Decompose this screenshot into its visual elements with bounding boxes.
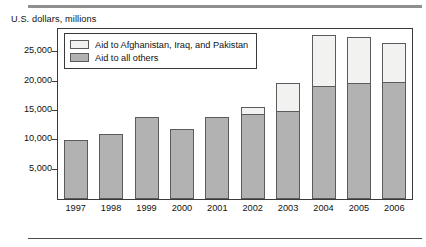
bottom-divider-rule: [28, 238, 422, 239]
bar-segment-all-others[interactable]: [170, 129, 194, 199]
x-axis-tick-label: 2006: [377, 203, 412, 214]
legend-item-label: Aid to Afghanistan, Iraq, and Pakistan: [95, 40, 248, 50]
x-axis-label-group: 1997199819992000200120022003200420052006: [58, 203, 412, 217]
y-axis-label-group: 25,00020,00015,00010,0005,000: [0, 28, 52, 200]
x-axis-tick-label: 2000: [164, 203, 199, 214]
y-axis-tick-label: 25,000: [0, 47, 52, 56]
x-axis-tick-label: 2005: [341, 203, 376, 214]
x-axis-tick-label: 2001: [200, 203, 235, 214]
y-axis-tick-label: 10,000: [0, 135, 52, 144]
bar-segment-all-others[interactable]: [64, 140, 88, 199]
bar-group[interactable]: [382, 29, 406, 199]
bar-segment-all-others[interactable]: [312, 86, 336, 199]
chart-legend: Aid to Afghanistan, Iraq, and Pakistan A…: [64, 33, 257, 69]
bar-segment-afghanistan-iraq-pakistan[interactable]: [241, 107, 265, 115]
bar-segment-all-others[interactable]: [276, 111, 300, 199]
x-axis-tick-label: 2003: [270, 203, 305, 214]
bar-segment-afghanistan-iraq-pakistan[interactable]: [312, 35, 336, 87]
legend-item-label: Aid to all others: [95, 53, 158, 63]
legend-item[interactable]: Aid to Afghanistan, Iraq, and Pakistan: [70, 38, 248, 51]
bar-group[interactable]: [347, 29, 371, 199]
bar-group[interactable]: [276, 29, 300, 199]
x-axis-tick-label: 2002: [235, 203, 270, 214]
top-divider-rule: [28, 5, 422, 8]
bar-segment-all-others[interactable]: [99, 134, 123, 199]
bar-segment-afghanistan-iraq-pakistan[interactable]: [276, 83, 300, 112]
y-axis-title: U.S. dollars, millions: [11, 14, 96, 24]
bar-segment-all-others[interactable]: [135, 117, 159, 199]
y-axis-tick-label: 15,000: [0, 105, 52, 114]
bar-segment-all-others[interactable]: [347, 83, 371, 199]
y-axis-tick-label: 20,000: [0, 76, 52, 85]
bar-segment-afghanistan-iraq-pakistan[interactable]: [382, 43, 406, 83]
bar-group[interactable]: [312, 29, 336, 199]
legend-swatch-afpak: [70, 40, 89, 49]
legend-swatch-others: [70, 53, 89, 62]
x-axis-tick-label: 1997: [58, 203, 93, 214]
bar-segment-all-others[interactable]: [241, 114, 265, 199]
legend-item[interactable]: Aid to all others: [70, 51, 248, 64]
y-axis-tick-label: 5,000: [0, 164, 52, 173]
x-axis-tick-label: 1999: [129, 203, 164, 214]
x-axis-tick-label: 2004: [306, 203, 341, 214]
x-axis-tick-label: 1998: [93, 203, 128, 214]
bar-segment-afghanistan-iraq-pakistan[interactable]: [347, 37, 371, 84]
bar-segment-all-others[interactable]: [205, 117, 229, 199]
bar-segment-all-others[interactable]: [382, 82, 406, 199]
